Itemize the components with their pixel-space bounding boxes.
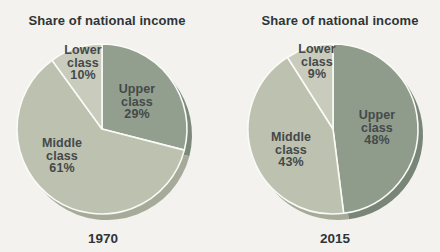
slice-label-lower-class-1970: Lower class 10% [64,44,101,82]
slice-label-middle-class-2015: Middle class 43% [271,131,311,169]
chart-title-2015: Share of national income [262,13,419,28]
chart-title-1970: Share of national income [29,13,186,28]
slice-label-lower-class-2015: Lower class 9% [298,43,335,81]
income-share-infographic: Share of national income Lower class 10%… [0,0,440,252]
year-label-2015: 2015 [320,231,350,246]
year-label-1970: 1970 [88,231,118,246]
slice-label-middle-class-1970: Middle class 61% [42,137,82,175]
slice-label-upper-class-1970: Upper class 29% [119,83,156,121]
slice-label-upper-class-2015: Upper class 48% [359,109,396,147]
